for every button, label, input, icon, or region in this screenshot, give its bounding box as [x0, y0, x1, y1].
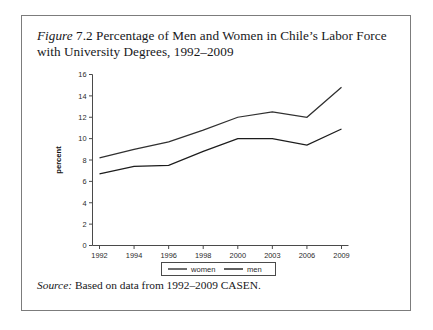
line-chart-svg: 0246810121416 19921994199619982000200320… — [35, 68, 399, 276]
y-tick-label: 14 — [78, 92, 86, 101]
series-line-men — [100, 129, 342, 174]
x-tick-label: 1994 — [126, 251, 142, 260]
legend-label-women: women — [190, 265, 215, 274]
chart-legend: women men — [162, 263, 276, 276]
y-tick-label: 16 — [78, 70, 86, 79]
y-tick-label: 10 — [78, 134, 86, 143]
x-axis-ticks — [100, 246, 342, 250]
y-axis-tick-labels: 0246810121416 — [78, 70, 86, 250]
y-tick-label: 8 — [82, 156, 86, 165]
series-line-women — [100, 87, 342, 158]
source-text: Based on data from 1992–2009 CASEN. — [75, 279, 261, 291]
y-axis-title: percent — [54, 146, 63, 174]
figure-number: 7.2 — [76, 28, 93, 43]
x-tick-label: 1992 — [91, 251, 107, 260]
x-tick-label: 2000 — [230, 251, 246, 260]
figure-frame: Figure 7.2 Percentage of Men and Women i… — [21, 15, 411, 311]
source-note: Source: Based on data from 1992–2009 CAS… — [37, 278, 393, 292]
x-tick-label: 1996 — [160, 251, 176, 260]
x-tick-label: 2006 — [299, 251, 315, 260]
figure-label: Figure — [37, 28, 73, 43]
y-tick-label: 6 — [82, 177, 86, 186]
y-tick-label: 4 — [82, 199, 86, 208]
y-axis-ticks — [89, 75, 93, 246]
chart-axes — [89, 75, 349, 250]
legend-label-men: men — [247, 265, 262, 274]
axis-lines — [93, 75, 349, 246]
source-label: Source: — [37, 279, 72, 291]
x-tick-label: 1998 — [195, 251, 211, 260]
x-tick-label: 2003 — [264, 251, 280, 260]
figure-caption: Figure 7.2 Percentage of Men and Women i… — [37, 28, 389, 61]
y-tick-label: 2 — [82, 220, 86, 229]
x-axis-tick-labels: 19921994199619982000200320062009 — [91, 251, 349, 260]
chart-series — [100, 87, 342, 174]
chart-plot: 0246810121416 19921994199619982000200320… — [35, 68, 399, 276]
y-tick-label: 12 — [78, 113, 86, 122]
y-tick-label: 0 — [82, 241, 86, 250]
x-tick-label: 2009 — [333, 251, 349, 260]
